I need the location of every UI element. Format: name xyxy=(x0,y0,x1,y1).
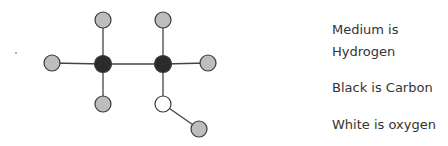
carbon-atom-c2 xyxy=(155,56,172,73)
carbon-atom-c1 xyxy=(95,56,112,73)
hydrogen-atom-h6 xyxy=(191,121,207,137)
hydrogen-atom-h1 xyxy=(95,12,111,28)
legend-line-black-carbon: Black is Carbon xyxy=(332,77,433,99)
hydrogen-atom-h3 xyxy=(44,55,60,71)
hydrogen-atom-h5 xyxy=(95,96,111,112)
hydrogen-atom-h2 xyxy=(155,12,171,28)
legend-line-hydrogen: Hydrogen xyxy=(332,41,395,63)
legend-line-medium-is: Medium is xyxy=(332,19,399,41)
hydrogen-atom-h4 xyxy=(200,55,216,71)
bonds-group xyxy=(52,20,208,129)
atoms-group xyxy=(44,12,216,137)
legend-line-white-oxygen: White is oxygen xyxy=(332,114,436,136)
stray-dot xyxy=(15,52,17,54)
oxygen-atom-o1 xyxy=(155,96,171,112)
